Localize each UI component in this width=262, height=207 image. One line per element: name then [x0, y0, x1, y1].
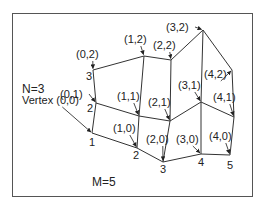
- vertex-index: 5: [227, 159, 233, 171]
- vertex-index: 2: [133, 149, 139, 161]
- vertex-label: (0,1): [60, 88, 83, 100]
- pointer-arrow: [89, 94, 95, 102]
- vertex-index: 3: [86, 70, 92, 82]
- mesh-edge: [93, 56, 144, 70]
- vertex-index-labels: 1232345: [86, 70, 233, 175]
- vertex-label: (3,2): [166, 21, 189, 33]
- vertex-label: (0,2): [76, 48, 99, 60]
- vertex-label: (3,1): [178, 79, 201, 91]
- pointer-arrow: [165, 109, 170, 120]
- mesh-edge: [139, 56, 144, 116]
- mesh-diagram: Vertex (0,0)(0,1)(0,2)(1,0)(1,1)(1,2)(2,…: [0, 0, 262, 207]
- pointer-arrow: [141, 46, 144, 55]
- vertex-label: (3,0): [176, 133, 199, 145]
- vertex-label: (1,2): [124, 33, 147, 45]
- pointer-arrow: [130, 135, 136, 147]
- mesh-edge: [201, 154, 230, 155]
- mesh-edge: [93, 70, 96, 103]
- pointer-arrow: [195, 92, 200, 101]
- vertex-index: 4: [198, 156, 204, 168]
- vertex-label: (1,0): [113, 122, 136, 134]
- vertex-label: (4,1): [213, 91, 236, 103]
- mesh-edge: [201, 30, 203, 102]
- vertex-label: (2,1): [148, 96, 171, 108]
- pointer-arrow: [226, 143, 230, 154]
- pointer-arrow: [193, 146, 200, 153]
- vertex-label: (2,2): [153, 39, 176, 51]
- vertex-index: 2: [87, 102, 93, 114]
- vertex-label: (4,2): [204, 68, 227, 80]
- mesh-edge: [96, 103, 139, 116]
- mesh-edge: [170, 60, 171, 121]
- mesh-edge: [139, 116, 170, 121]
- mesh-edge: [163, 154, 201, 162]
- vertex-index: 1: [89, 136, 95, 148]
- mesh-edge: [144, 56, 171, 60]
- vertex-labels: Vertex (0,0)(0,1)(0,2)(1,0)(1,1)(1,2)(2,…: [22, 21, 236, 145]
- vertex-label: (1,1): [117, 90, 140, 102]
- vertex-label: (2,0): [146, 133, 169, 145]
- vertex-index: 3: [160, 163, 166, 175]
- pointer-arrow: [134, 103, 139, 115]
- mesh-edge: [171, 30, 203, 60]
- pointer-arrow: [195, 27, 202, 29]
- vertex-label: (4,0): [209, 130, 232, 142]
- mesh-edge: [137, 116, 139, 148]
- mesh-edge: [137, 148, 163, 162]
- n-label: N=3: [22, 82, 45, 96]
- pointer-arrow: [230, 104, 234, 116]
- mesh-edge: [201, 102, 234, 117]
- m-label: M=5: [92, 175, 116, 189]
- mesh-edge: [203, 30, 232, 70]
- pointer-arrow: [170, 52, 171, 59]
- mesh-edge: [170, 102, 201, 121]
